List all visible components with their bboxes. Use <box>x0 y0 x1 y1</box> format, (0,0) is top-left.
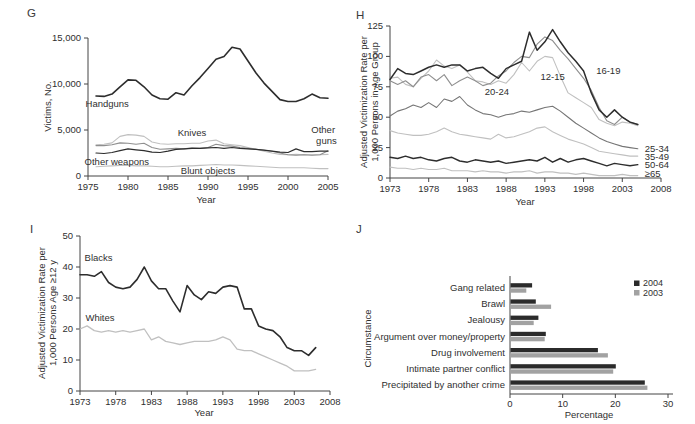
y-tick-label: 10 <box>62 354 73 365</box>
bar-argument-over-money-property-2003 <box>511 337 545 341</box>
charts-svg: 05,00010,00015,0001975198019851990199520… <box>0 0 695 424</box>
legend-swatch-2003 <box>634 290 640 296</box>
panel-j-y-axis-label: Circumstance <box>362 279 373 399</box>
category-label-precipitated-by-another-crime: Precipitated by another crime <box>381 379 505 390</box>
bar-drug-involvement-2003 <box>511 353 608 357</box>
bar-intimate-partner-conflict-2003 <box>511 369 614 373</box>
bar-gang-related-2003 <box>511 288 527 292</box>
x-tick-label: 2003 <box>612 183 633 194</box>
panel-h-plot: 0255075100125197319781983198819931998200… <box>367 20 671 194</box>
axis-lines <box>80 236 330 391</box>
series-line-knives <box>96 135 328 155</box>
x-tick-label: 1983 <box>141 396 162 407</box>
series-line-35-49 <box>390 127 638 156</box>
x-tick-label: 30 <box>663 398 674 409</box>
series-line-other-weapons <box>96 148 328 154</box>
figure-quad-panel: 05,00010,00015,0001975198019851990199520… <box>0 0 695 424</box>
panel-g-letter: G <box>27 7 36 19</box>
x-tick-label: 0 <box>507 398 512 409</box>
panel-i-letter: I <box>30 223 33 235</box>
annotation-12-15: 12-15 <box>540 71 564 82</box>
x-tick-label: 1975 <box>77 181 98 192</box>
panel-g-y-axis-label: Victims, No. <box>42 37 53 177</box>
panel-j-plot: 0102030Gang relatedBrawlJealousyArgument… <box>374 276 673 409</box>
panel-h-y-axis-label: Adjusted Victimization Rate per 1,000 Pe… <box>358 17 380 187</box>
annotation-65: ≥65 <box>645 168 661 179</box>
x-tick-label: 1988 <box>496 183 517 194</box>
bar-precipitated-by-another-crime-2004 <box>511 380 645 384</box>
annotation-20-24: 20-24 <box>485 86 509 97</box>
y-tick-label: 50 <box>62 230 73 241</box>
series-line-blacks <box>80 267 316 355</box>
y-tick-label: 40 <box>62 261 73 272</box>
y-tick-label: 0 <box>68 385 73 396</box>
annotation-other: Other <box>311 124 335 135</box>
panel-g-x-axis-label: Year <box>176 194 236 205</box>
annotation-blacks: Blacks <box>85 252 113 263</box>
series-line-65 <box>390 167 638 176</box>
x-tick-label: 1998 <box>248 396 269 407</box>
x-tick-label: 1978 <box>105 396 126 407</box>
annotation-guns: guns <box>316 135 337 146</box>
category-label-intimate-partner-conflict: Intimate partner conflict <box>406 363 505 374</box>
y-tick-label: 0 <box>76 170 81 181</box>
x-tick-label: 1985 <box>157 181 178 192</box>
panel-j-letter: J <box>356 223 362 235</box>
x-tick-label: 1988 <box>177 396 198 407</box>
y-tick-label: 15,000 <box>52 32 81 43</box>
x-tick-label: 1973 <box>379 183 400 194</box>
x-tick-label: 1990 <box>197 181 218 192</box>
series-line-handguns <box>96 47 328 101</box>
x-tick-label: 2003 <box>284 396 305 407</box>
x-tick-label: 2000 <box>277 181 298 192</box>
panel-g-plot: 05,00010,00015,0001975198019851990199520… <box>52 32 339 192</box>
annotation-blunt-objects: Blunt objects <box>181 165 236 176</box>
annotation-16-19: 16-19 <box>596 65 620 76</box>
bar-drug-involvement-2004 <box>511 348 598 352</box>
annotation-handguns: Handguns <box>86 98 130 109</box>
legend-label-2004: 2004 <box>643 278 663 288</box>
panel-j-x-axis-label: Percentage <box>549 409 629 420</box>
x-tick-label: 2008 <box>319 396 340 407</box>
panel-i-x-axis-label: Year <box>174 407 234 418</box>
x-tick-label: 1993 <box>212 396 233 407</box>
category-label-drug-involvement: Drug involvement <box>431 347 505 358</box>
bar-jealousy-2004 <box>511 316 539 320</box>
x-tick-label: 1998 <box>573 183 594 194</box>
bar-argument-over-money-property-2004 <box>511 332 546 336</box>
y-tick-label: 10,000 <box>52 78 81 89</box>
x-tick-label: 1973 <box>69 396 90 407</box>
panel-i-y-axis-label: Adjusted Victimization Rate per 1,000 Pe… <box>36 228 58 398</box>
x-tick-label: 1978 <box>418 183 439 194</box>
category-label-argument-over-money-property: Argument over money/property <box>374 331 505 342</box>
panel-i-plot: 0102030405019731978198319881993199820032… <box>62 230 340 407</box>
bar-precipitated-by-another-crime-2003 <box>511 386 648 390</box>
series-line-50-64 <box>390 156 638 166</box>
x-tick-label: 10 <box>557 398 568 409</box>
series-line-whites <box>80 326 316 371</box>
x-tick-label: 2008 <box>650 183 671 194</box>
category-label-jealousy: Jealousy <box>468 314 506 325</box>
bar-gang-related-2004 <box>511 283 533 287</box>
annotation-knives: Knives <box>178 127 207 138</box>
legend-label-2003: 2003 <box>643 288 663 298</box>
annotation-other-weapons: Other weapons <box>85 156 150 167</box>
bar-intimate-partner-conflict-2004 <box>511 364 616 368</box>
category-label-gang-related: Gang related <box>450 282 505 293</box>
x-tick-label: 1983 <box>457 183 478 194</box>
bar-brawl-2004 <box>511 299 536 303</box>
y-tick-label: 5,000 <box>57 124 81 135</box>
legend-swatch-2004 <box>634 281 640 287</box>
x-tick-label: 2005 <box>317 181 338 192</box>
y-tick-label: 20 <box>62 323 73 334</box>
x-tick-label: 1995 <box>237 181 258 192</box>
y-tick-label: 30 <box>62 292 73 303</box>
x-tick-label: 20 <box>610 398 621 409</box>
x-tick-label: 1993 <box>534 183 555 194</box>
bar-brawl-2003 <box>511 305 552 309</box>
bar-jealousy-2003 <box>511 321 534 325</box>
category-label-brawl: Brawl <box>481 298 505 309</box>
x-tick-label: 1980 <box>117 181 138 192</box>
panel-h-x-axis-label: Year <box>495 196 555 207</box>
series-line-25-34 <box>390 97 638 149</box>
